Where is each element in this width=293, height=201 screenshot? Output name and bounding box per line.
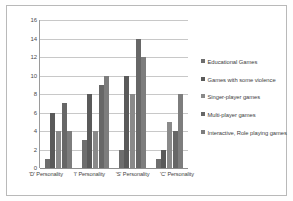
- legend-swatch-icon: [201, 59, 205, 63]
- legend-swatch-icon: [201, 77, 205, 81]
- legend-label: Games with some violence: [208, 76, 276, 85]
- bar: [62, 103, 67, 168]
- legend-item[interactable]: Educational Games: [201, 58, 289, 67]
- bar: [161, 150, 166, 169]
- legend-swatch-icon: [201, 112, 205, 116]
- bar-group: [77, 20, 114, 168]
- chart-figure: 0246810121416 'D' Personality'I' Persona…: [0, 0, 293, 201]
- bar: [173, 131, 178, 168]
- legend-item[interactable]: Singer-player games: [201, 93, 289, 102]
- bar: [130, 94, 135, 168]
- bars-layer: [40, 20, 187, 168]
- y-tick-label-4: 4: [11, 128, 37, 134]
- bar-group: [114, 20, 151, 168]
- y-tick-label-2: 2: [11, 147, 37, 153]
- legend-label: Multi-player games: [208, 111, 256, 120]
- chart-border: 0246810121416 'D' Personality'I' Persona…: [6, 5, 287, 196]
- y-tick-label-6: 6: [11, 110, 37, 116]
- y-tick-label-8: 8: [11, 91, 37, 97]
- y-tick-label-10: 10: [11, 73, 37, 79]
- x-tick-label-2: 'I' Personality: [74, 172, 105, 178]
- bar: [87, 94, 92, 168]
- chart-legend: Educational GamesGames with some violenc…: [201, 58, 289, 146]
- bar-group: [151, 20, 188, 168]
- bar: [99, 85, 104, 168]
- y-tick-label-14: 14: [11, 36, 37, 42]
- bar: [156, 159, 161, 168]
- y-axis: 0246810121416: [7, 20, 37, 168]
- legend-label: Educational Games: [208, 58, 258, 67]
- bar-group: [40, 20, 77, 168]
- bar: [119, 150, 124, 169]
- x-axis: 'D' Personality'I' Personality'S' Person…: [29, 172, 194, 186]
- gridline-0: [40, 168, 188, 169]
- legend-label: Interactive, Role playing games: [208, 129, 287, 138]
- bar: [93, 131, 98, 168]
- bar: [124, 76, 129, 169]
- bar: [67, 131, 72, 168]
- bar: [167, 122, 172, 168]
- legend-item[interactable]: Multi-player games: [201, 111, 289, 120]
- bar: [136, 39, 141, 169]
- bar: [178, 94, 183, 168]
- bar: [50, 113, 55, 169]
- x-tick-label-4: 'C' Personality: [160, 172, 194, 178]
- y-tick-label-16: 16: [11, 17, 37, 23]
- bar: [141, 57, 146, 168]
- y-tick-label-12: 12: [11, 54, 37, 60]
- legend-item[interactable]: Interactive, Role playing games: [201, 129, 289, 138]
- bar: [82, 140, 87, 168]
- legend-swatch-icon: [201, 130, 205, 134]
- legend-label: Singer-player games: [208, 93, 261, 102]
- legend-item[interactable]: Games with some violence: [201, 76, 289, 85]
- bar: [56, 131, 61, 168]
- x-tick-label-1: 'D' Personality: [29, 172, 63, 178]
- bar: [104, 76, 109, 169]
- x-tick-label-3: 'S' Personality: [116, 172, 150, 178]
- bar: [45, 159, 50, 168]
- legend-swatch-icon: [201, 94, 205, 98]
